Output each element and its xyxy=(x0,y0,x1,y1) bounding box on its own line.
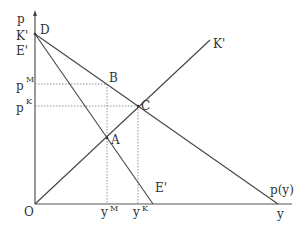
origin-label: O xyxy=(24,205,34,219)
p-k-superscript: K xyxy=(26,97,33,106)
e-prime-line-label: E' xyxy=(155,181,167,195)
point-c-label: C xyxy=(141,99,150,113)
y-axis-arrow-icon xyxy=(33,10,37,16)
k-prime-line xyxy=(35,40,210,204)
k-prime-line-label: K' xyxy=(213,37,225,51)
left-k-prime-label: K' xyxy=(16,29,28,43)
point-d-label: D xyxy=(40,23,50,37)
p-k-label: p xyxy=(16,101,24,115)
y-k-superscript: K xyxy=(142,204,149,213)
point-a-label: A xyxy=(110,133,120,147)
p-m-label: p xyxy=(16,79,24,93)
point-c-marker xyxy=(137,105,140,108)
demand-line-label: p(y) xyxy=(270,183,294,197)
x-axis-label: y xyxy=(276,207,284,221)
y-k-label: y xyxy=(132,205,140,219)
y-m-label: y xyxy=(100,205,108,219)
y-m-superscript: M xyxy=(110,204,118,213)
left-e-prime-label: E' xyxy=(16,44,28,58)
y-axis-label: p xyxy=(17,12,25,26)
p-m-superscript: M xyxy=(26,75,34,84)
diagram-canvas: p K' E' p M p K O y M y K y D B C A K' E… xyxy=(0,0,303,237)
point-a-marker xyxy=(106,137,109,140)
point-b-label: B xyxy=(109,71,118,85)
point-d-marker xyxy=(34,33,37,36)
e-prime-line xyxy=(35,34,153,204)
demand-line xyxy=(35,34,278,204)
